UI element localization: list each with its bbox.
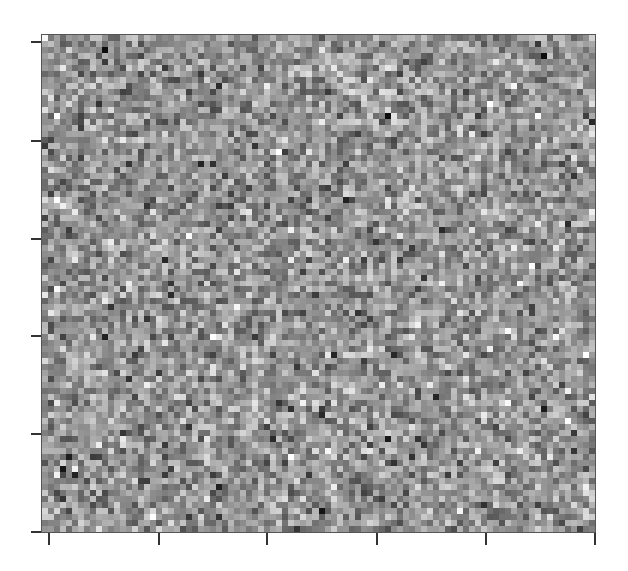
- x-tick-1: [158, 533, 160, 545]
- y-tick-3: [31, 335, 41, 337]
- y-tick-2: [31, 238, 41, 240]
- x-tick-4: [485, 533, 487, 545]
- heatmap-plot-area: [42, 35, 595, 532]
- x-tick-3: [376, 533, 378, 545]
- y-tick-5: [31, 531, 41, 533]
- y-tick-0: [31, 41, 41, 43]
- x-tick-2: [266, 533, 268, 545]
- x-tick-0: [48, 533, 50, 545]
- y-tick-1: [31, 140, 41, 142]
- y-tick-4: [31, 433, 41, 435]
- x-tick-5: [594, 533, 596, 545]
- noise-heatmap: [42, 35, 595, 532]
